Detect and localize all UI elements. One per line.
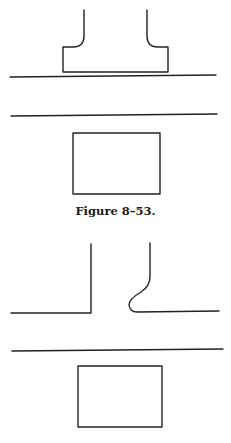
road-edge-far bbox=[12, 349, 223, 351]
road-edge-near bbox=[10, 75, 216, 77]
figure-bottom-drawing bbox=[11, 243, 223, 427]
figure-caption: Figure 8–53. bbox=[0, 204, 231, 218]
driveway-flared-outline bbox=[63, 10, 168, 72]
rectangle-object bbox=[73, 133, 160, 194]
road-edge-far bbox=[11, 114, 217, 116]
figure-diagram bbox=[0, 0, 231, 443]
figure-8-53-drawing bbox=[10, 10, 217, 194]
driveway-right-curved-return bbox=[129, 243, 219, 312]
driveway-left-corner bbox=[11, 244, 91, 313]
rectangle-object bbox=[78, 366, 162, 427]
